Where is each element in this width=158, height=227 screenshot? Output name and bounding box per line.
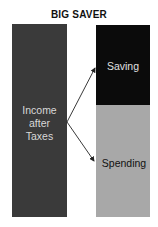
arrow-to-saving-icon: [67, 68, 95, 122]
arrow-to-spending-icon: [67, 122, 94, 161]
arrows: [0, 0, 158, 227]
